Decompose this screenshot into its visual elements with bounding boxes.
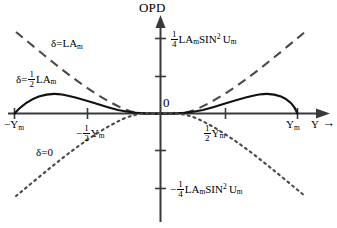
origin-label: 0 [163, 96, 170, 109]
expr-u-subscript: m [231, 37, 237, 46]
y-symbol: Y [286, 118, 294, 130]
fraction-denominator: 2 [28, 80, 35, 89]
curve-label-delta-eq-zero: δ=0 [36, 147, 53, 158]
expr-zero: 0 [47, 146, 53, 158]
fraction-denominator: 2 [83, 134, 90, 143]
y-axis-title: OPD [139, 1, 166, 14]
y-value-minus-quarter: − 1 4 LAmSIN2 Um [170, 180, 243, 200]
y-subscript: m [294, 123, 300, 132]
plot-canvas [0, 0, 337, 228]
x-tick-label-minus-ym: −Ym [4, 119, 24, 131]
expr-la: LA [179, 33, 194, 45]
expr-la: LA [185, 183, 200, 195]
minus-sign: − [76, 127, 82, 139]
curve-delta-eq-half-lam [15, 94, 298, 114]
curve-label-delta-eq-lam: δ=LAm [51, 38, 83, 50]
fraction-denominator: 2 [204, 134, 211, 143]
x-tick-label-half-ym: 1 2 Ym [203, 124, 225, 144]
expr-sin: SIN [199, 33, 217, 45]
fraction-one-half: 1 2 [204, 124, 211, 144]
fraction-one-quarter-neg: 1 4 [177, 180, 184, 200]
expr-la-subscript: m [77, 42, 83, 51]
expr-u-subscript: m [237, 187, 243, 196]
y-subscript: m [18, 123, 24, 132]
fraction-denominator: 4 [177, 190, 184, 199]
expr-sin-exponent: 2 [217, 32, 221, 41]
y-subscript: m [219, 131, 225, 140]
y-axis-arrowhead [156, 15, 166, 28]
expr-la-subscript: m [51, 77, 57, 86]
x-tick-label-minus-half-ym: − 1 2 Ym [76, 124, 105, 144]
x-axis-direction-arrow-icon: → [322, 116, 335, 129]
expr-la: LA [36, 73, 51, 85]
y-subscript: m [99, 131, 105, 140]
expr-u: U [223, 33, 231, 45]
expr-la: LA [62, 37, 77, 49]
x-axis-title: Y [311, 119, 319, 130]
fraction-one-half: 1 2 [83, 124, 90, 144]
fraction-one-half: 1 2 [28, 70, 35, 90]
y-symbol: Y [91, 127, 99, 139]
equals-sign: = [21, 73, 27, 85]
fraction-one-quarter: 1 4 [171, 30, 178, 50]
expr-sin: SIN [205, 183, 223, 195]
y-symbol: Y [10, 118, 18, 130]
x-tick-label-ym: Ym [286, 119, 300, 131]
y-axis-group [156, 15, 166, 222]
minus-sign: − [170, 183, 176, 195]
opd-graph-figure: OPD 1 4 LAmSIN2 Um − 1 4 LAmSIN2 Um 0 δ=… [0, 0, 337, 228]
fraction-denominator: 4 [171, 40, 178, 49]
expr-sin-exponent: 2 [223, 182, 227, 191]
expr-u: U [229, 183, 237, 195]
curve-label-delta-eq-half-lam: δ= 1 2 LAm [16, 70, 56, 90]
y-value-plus-quarter: 1 4 LAmSIN2 Um [170, 30, 236, 50]
